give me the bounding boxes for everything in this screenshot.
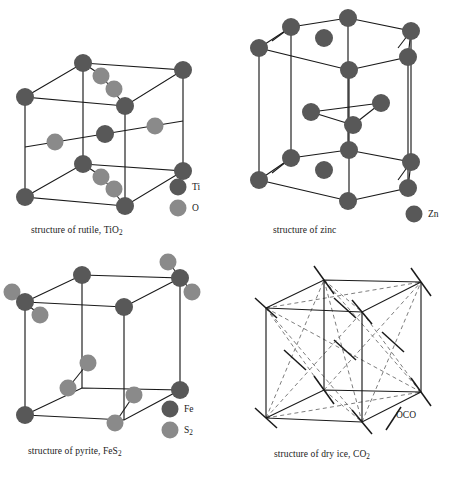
pyrite-diagram bbox=[0, 240, 235, 479]
panel-dryice: OCO structure of dry ice, CO2 bbox=[236, 240, 471, 479]
legend-sphere-zn bbox=[406, 206, 423, 223]
zinc-atoms bbox=[250, 9, 420, 210]
panel-zinc: Zn structure of zinc bbox=[236, 0, 471, 239]
caption-pyrite: structure of pyrite, FeS2 bbox=[28, 446, 122, 456]
zinc-cell-edges bbox=[259, 18, 411, 201]
dryice-diagram bbox=[236, 240, 471, 479]
legend-label-s2: S2 bbox=[184, 425, 193, 435]
caption-pyrite-text: structure of pyrite, FeS bbox=[28, 446, 118, 456]
caption-pyrite-subscript: 2 bbox=[118, 450, 122, 458]
caption-dryice-subscript: 2 bbox=[366, 453, 370, 461]
legend-label-o: O bbox=[192, 203, 199, 213]
legend-label-ti: Ti bbox=[192, 182, 200, 192]
panel-pyrite: Fe S2 structure of pyrite, FeS2 bbox=[0, 240, 235, 479]
caption-rutile-text: structure of rutile, TiO bbox=[31, 225, 119, 235]
dryice-cell-edges bbox=[266, 280, 421, 422]
legend-sphere-fe bbox=[162, 401, 179, 418]
dryice-dashed-diagonals bbox=[266, 280, 421, 422]
pyrite-cell-edges bbox=[25, 275, 180, 420]
legend-label-fe: Fe bbox=[184, 404, 194, 414]
legend-label-s2-subscript: 2 bbox=[189, 429, 193, 437]
caption-dryice: structure of dry ice, CO2 bbox=[274, 449, 370, 459]
caption-zinc: structure of zinc bbox=[273, 225, 336, 235]
crystal-structure-figure: Ti O structure of rutile, TiO2 bbox=[0, 0, 471, 479]
zinc-diagram bbox=[236, 0, 471, 239]
panel-rutile: Ti O structure of rutile, TiO2 bbox=[0, 0, 235, 239]
caption-dryice-text: structure of dry ice, CO bbox=[274, 449, 366, 459]
pyrite-iron-atoms bbox=[16, 266, 189, 424]
legend-label-zn: Zn bbox=[428, 209, 439, 219]
rutile-diagram bbox=[0, 0, 235, 239]
legend-sphere-ti bbox=[170, 179, 187, 196]
legend-sphere-o bbox=[170, 200, 187, 217]
legend-sphere-s2 bbox=[162, 422, 179, 439]
caption-rutile-subscript: 2 bbox=[119, 229, 123, 237]
caption-rutile: structure of rutile, TiO2 bbox=[31, 225, 123, 235]
legend-label-oco: OCO bbox=[396, 410, 416, 420]
